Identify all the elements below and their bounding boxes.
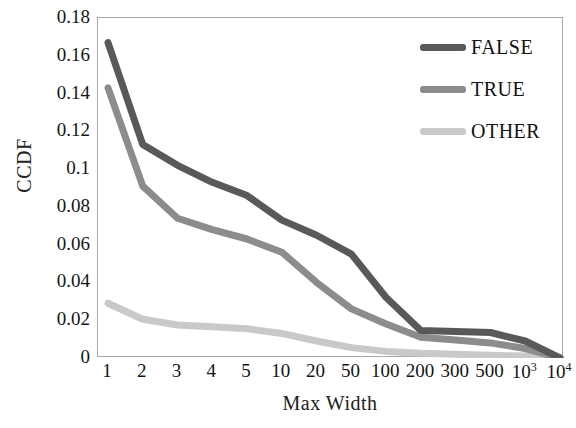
y-axis-tick-label: 0.04 [57,270,90,292]
y-axis-tick-label: 0.16 [57,44,90,66]
chart-legend: FALSETRUEOTHER [420,26,570,152]
x-axis-tick-label: 2 [137,360,147,382]
y-axis-tick-label: 0.14 [57,82,90,104]
x-axis-tick-label: 103 [512,360,537,383]
legend-swatch-false [420,44,466,51]
legend-swatch-true [420,86,466,93]
y-axis-tick-label: 0.1 [66,157,90,179]
x-axis-tick-label: 10 [271,360,290,382]
legend-item-true: TRUE [420,68,570,110]
y-axis-tick-label: 0.02 [57,308,90,330]
y-axis-tick-label: 0.18 [57,6,90,28]
x-axis-tick-label: 50 [341,360,360,382]
x-axis-tick-label: 1 [102,360,112,382]
x-axis-title: Max Width [97,392,563,415]
y-axis-tick-label: 0.12 [57,119,90,141]
chart-figure: CCDF 00.020.040.060.080.10.120.140.160.1… [0,0,576,428]
x-axis-tick-label: 100 [371,360,400,382]
x-axis-tick-label: 200 [406,360,435,382]
y-axis-tick-labels: 00.020.040.060.080.10.120.140.160.18 [20,17,90,357]
x-axis-tick-label: 4 [207,360,217,382]
y-axis-tick-label: 0 [81,346,91,368]
x-axis-tick-label: 5 [241,360,251,382]
legend-label: OTHER [471,120,540,143]
legend-label: TRUE [471,78,525,101]
x-axis-tick-label: 3 [172,360,182,382]
x-axis-tick-labels: 12345102050100200300500103104 [97,360,563,388]
legend-item-other: OTHER [420,110,570,152]
x-axis-tick-label: 300 [440,360,469,382]
y-axis-tick-label: 0.06 [57,233,90,255]
legend-item-false: FALSE [420,26,570,68]
x-axis-tick-label: 104 [547,360,572,383]
legend-label: FALSE [471,36,533,59]
y-axis-tick-label: 0.08 [57,195,90,217]
x-axis-tick-label: 500 [475,360,504,382]
legend-swatch-other [420,128,466,135]
x-axis-tick-label: 20 [306,360,325,382]
